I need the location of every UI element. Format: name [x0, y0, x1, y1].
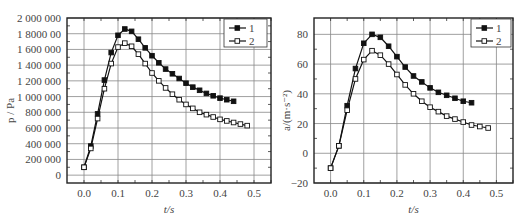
data-point [204, 112, 209, 117]
data-point [123, 27, 128, 32]
legend-label-2: 2 [249, 35, 255, 47]
series-2 [82, 41, 250, 170]
data-point [163, 86, 168, 91]
data-point [95, 116, 100, 121]
data-point [444, 93, 449, 98]
data-point [116, 45, 121, 50]
legend-label-1: 1 [496, 22, 502, 34]
data-point [89, 146, 94, 151]
y-axis-label: p / Pa [4, 98, 16, 123]
data-point [386, 62, 391, 67]
legend-label-2: 2 [496, 35, 502, 47]
legend-marker-1 [482, 26, 487, 31]
y-tick-label: 2 000 000 [17, 12, 62, 24]
acceleration-chart: 0.00.10.20.30.40.5−20020406080t/sa/(m·s⁻… [280, 0, 523, 223]
data-point [123, 41, 128, 46]
data-point [225, 119, 230, 124]
data-point [170, 92, 175, 97]
y-tick-label: −20 [291, 177, 309, 189]
x-tick-label: 0.1 [111, 187, 125, 199]
data-point [136, 37, 141, 42]
series-2 [328, 48, 490, 170]
y-tick-label: 0 [56, 169, 62, 181]
data-point [184, 102, 189, 107]
x-tick-label: 0.2 [145, 187, 159, 199]
y-tick-label: 1 400 000 [17, 59, 62, 71]
data-point [411, 74, 416, 79]
x-tick-label: 0.3 [179, 187, 193, 199]
data-point [436, 90, 441, 95]
data-point [436, 109, 441, 114]
data-point [191, 85, 196, 90]
y-tick-label: 1 600 000 [17, 43, 62, 55]
data-point [184, 81, 189, 86]
data-point [444, 114, 449, 119]
data-point [177, 97, 182, 102]
data-point [116, 33, 121, 38]
data-point [231, 120, 236, 125]
data-point [461, 99, 466, 104]
x-tick-label: 0.3 [423, 187, 437, 199]
y-tick-label: 1 200 000 [17, 75, 62, 87]
data-point [129, 29, 134, 34]
legend-label-1: 1 [249, 22, 255, 34]
y-tick-label: 0 [303, 147, 309, 159]
data-point [469, 100, 474, 105]
x-tick-label: 0.4 [213, 187, 227, 199]
data-point [109, 61, 114, 66]
y-tick-label: 400 000 [25, 138, 61, 150]
y-tick-label: 1 000 000 [17, 91, 62, 103]
data-point [150, 71, 155, 76]
data-point [82, 165, 87, 170]
data-point [136, 52, 141, 57]
x-axis-label: t/s [164, 203, 174, 215]
data-point [370, 32, 375, 37]
y-tick-labels: −20020406080 [291, 28, 309, 189]
data-point [353, 66, 358, 71]
data-point [197, 110, 202, 115]
series-1 [82, 27, 236, 170]
y-tick-label: 40 [297, 88, 309, 100]
data-point [486, 126, 491, 131]
data-point [403, 83, 408, 88]
legend-marker-2 [235, 39, 240, 44]
data-point [403, 65, 408, 70]
y-tick-label: 600 000 [25, 122, 61, 134]
data-point [211, 93, 216, 98]
data-point [419, 99, 424, 104]
data-point [453, 117, 458, 122]
y-tick-label: 20 [297, 118, 309, 130]
data-point [129, 44, 134, 49]
y-tick-labels: 0200 000400 000600 000800 0001 000 0001 … [17, 12, 62, 181]
data-point [102, 86, 107, 91]
y-axis-label: a/(m·s⁻²) [280, 90, 293, 131]
x-tick-labels: 0.00.10.20.30.40.5 [324, 187, 504, 199]
data-point [395, 54, 400, 59]
data-point [461, 120, 466, 125]
data-point [225, 97, 230, 102]
x-tick-label: 0.5 [247, 187, 261, 199]
data-point [191, 106, 196, 111]
data-point [469, 123, 474, 128]
data-point [231, 99, 236, 104]
x-tick-label: 0.1 [357, 187, 371, 199]
x-tick-label: 0.4 [456, 187, 470, 199]
data-point [370, 48, 375, 53]
data-point [170, 71, 175, 76]
data-point [345, 108, 350, 113]
data-point [143, 46, 148, 51]
data-point [109, 50, 114, 55]
x-tick-label: 0.2 [390, 187, 404, 199]
legend-marker-2 [482, 39, 487, 44]
data-point [238, 122, 243, 127]
data-point [163, 67, 168, 72]
x-tick-labels: 0.00.10.20.30.40.5 [77, 187, 261, 199]
y-tick-label: 800 000 [25, 106, 61, 118]
data-point [328, 166, 333, 171]
data-point [197, 88, 202, 93]
data-point [378, 53, 383, 58]
x-tick-label: 0.5 [490, 187, 504, 199]
legend: 12 [224, 19, 267, 47]
y-tick-label: 60 [297, 58, 309, 70]
data-point [411, 92, 416, 97]
